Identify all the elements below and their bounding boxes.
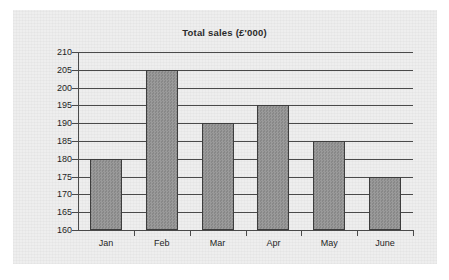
y-tick-mark-160 — [72, 230, 78, 231]
x-tick-label-june: June — [357, 238, 413, 248]
gridline-190 — [78, 123, 413, 124]
y-tick-mark-190 — [72, 123, 78, 124]
y-tick-label-205: 205 — [38, 66, 72, 75]
y-tick-label-200: 200 — [38, 84, 72, 93]
y-tick-mark-200 — [72, 88, 78, 89]
y-tick-label-170: 170 — [38, 190, 72, 199]
x-tick-mark-4 — [301, 230, 302, 236]
gridline-210 — [78, 52, 413, 53]
gridline-200 — [78, 88, 413, 89]
chart-page: Total sales (£'000) 21020520019519018518… — [0, 0, 449, 280]
y-axis-tick-labels: 210205200195190185180175170165160 — [36, 52, 72, 230]
x-tick-label-mar: Mar — [190, 238, 246, 248]
y-tick-mark-165 — [72, 212, 78, 213]
x-tick-mark-2 — [190, 230, 191, 236]
y-tick-mark-205 — [72, 70, 78, 71]
bar-mar[interactable] — [202, 123, 234, 230]
y-tick-mark-185 — [72, 141, 78, 142]
y-tick-label-185: 185 — [38, 137, 72, 146]
x-tick-mark-5 — [357, 230, 358, 236]
y-tick-mark-175 — [72, 177, 78, 178]
chart-title: Total sales (£'000) — [0, 27, 449, 38]
bar-feb[interactable] — [146, 70, 178, 230]
y-tick-label-175: 175 — [38, 173, 72, 182]
bar-june[interactable] — [369, 177, 401, 230]
x-tick-mark-1 — [134, 230, 135, 236]
y-tick-label-160: 160 — [38, 226, 72, 235]
y-tick-label-190: 190 — [38, 119, 72, 128]
gridline-170 — [78, 194, 413, 195]
y-tick-mark-180 — [72, 159, 78, 160]
y-tick-mark-170 — [72, 194, 78, 195]
y-tick-mark-210 — [72, 52, 78, 53]
x-tick-label-apr: Apr — [245, 238, 301, 248]
gridline-165 — [78, 212, 413, 213]
bar-apr[interactable] — [257, 105, 289, 230]
y-tick-label-210: 210 — [38, 48, 72, 57]
gridline-180 — [78, 159, 413, 160]
x-tick-mark-6 — [413, 230, 414, 236]
gridline-175 — [78, 177, 413, 178]
gridline-205 — [78, 70, 413, 71]
x-tick-label-may: May — [301, 238, 357, 248]
y-tick-label-195: 195 — [38, 101, 72, 110]
gridline-195 — [78, 105, 413, 106]
y-tick-label-180: 180 — [38, 155, 72, 164]
x-tick-mark-3 — [246, 230, 247, 236]
bar-jan[interactable] — [90, 159, 122, 230]
y-tick-mark-195 — [72, 105, 78, 106]
x-tick-label-jan: Jan — [78, 238, 134, 248]
x-tick-label-feb: Feb — [134, 238, 190, 248]
bar-may[interactable] — [313, 141, 345, 230]
y-tick-label-165: 165 — [38, 208, 72, 217]
gridline-185 — [78, 141, 413, 142]
plot-area — [78, 52, 413, 230]
